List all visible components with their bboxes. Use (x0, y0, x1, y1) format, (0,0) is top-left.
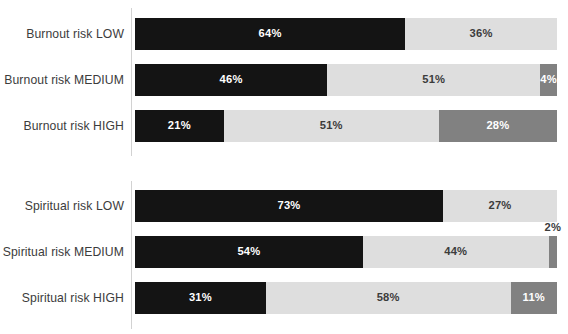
bar-segment-value: 28% (486, 120, 509, 131)
bar-segment-value: 11% (523, 292, 545, 303)
bar-row-label: Spiritual risk HIGH (0, 282, 124, 314)
bar-segment-black[interactable]: 21% (135, 110, 224, 142)
bar-segment-value: 31% (189, 292, 212, 303)
bar-segment-light[interactable]: 51% (327, 64, 540, 96)
table-row[interactable]: Burnout risk HIGH 21% 51% 28% (0, 110, 568, 142)
bar-track: 54% 44% 2% (135, 236, 557, 268)
bar-track: 73% 27% (135, 190, 557, 222)
bar-segment-value: 36% (470, 28, 493, 39)
bar-row-label: Spiritual risk MEDIUM (0, 236, 124, 268)
chart-group-spiritual: Spiritual risk LOW 73% 27% Spiritual ris… (0, 167, 568, 334)
bar-segment-black[interactable]: 31% (135, 282, 266, 314)
bar-segment-value: 46% (220, 74, 243, 85)
bar-segment-light[interactable]: 27% (443, 190, 557, 222)
bar-segment-value: 58% (377, 292, 400, 303)
bar-segment-value: 54% (237, 246, 260, 257)
table-row[interactable]: Spiritual risk HIGH 31% 58% 11% (0, 282, 568, 314)
bar-track: 64% 36% (135, 18, 557, 50)
stacked-bar-chart: Burnout risk LOW 64% 36% Burnout risk ME… (0, 0, 568, 334)
bar-segment-light[interactable]: 58% (266, 282, 511, 314)
bar-segment-value: 2% (544, 222, 561, 233)
bar-row-label: Burnout risk LOW (0, 18, 124, 50)
bar-segment-light[interactable]: 44% (363, 236, 549, 268)
bar-segment-dark[interactable]: 2% (549, 236, 557, 268)
bar-row-label: Burnout risk HIGH (0, 110, 124, 142)
table-row[interactable]: Spiritual risk LOW 73% 27% (0, 190, 568, 222)
bar-segment-value: 27% (489, 200, 512, 211)
bar-segment-value: 44% (444, 246, 467, 257)
bar-segment-value: 4% (540, 74, 557, 85)
bar-row-label: Spiritual risk LOW (0, 190, 124, 222)
bar-segment-value: 21% (168, 120, 191, 131)
bar-track: 21% 51% 28% (135, 110, 557, 142)
bar-segment-light[interactable]: 51% (224, 110, 439, 142)
bar-segment-dark[interactable]: 28% (439, 110, 557, 142)
bar-track: 31% 58% 11% (135, 282, 557, 314)
bar-segment-dark[interactable]: 11% (511, 282, 557, 314)
bar-segment-light[interactable]: 36% (405, 18, 557, 50)
table-row[interactable]: Burnout risk MEDIUM 46% 51% 4% (0, 64, 568, 96)
table-row[interactable]: Burnout risk LOW 64% 36% (0, 18, 568, 50)
bar-track: 46% 51% 4% (135, 64, 557, 96)
bar-segment-dark[interactable]: 4% (540, 64, 557, 96)
table-row[interactable]: Spiritual risk MEDIUM 54% 44% 2% (0, 236, 568, 268)
bar-segment-value: 64% (259, 28, 282, 39)
bar-row-label: Burnout risk MEDIUM (0, 64, 124, 96)
bar-segment-value: 73% (278, 200, 301, 211)
bar-segment-black[interactable]: 73% (135, 190, 443, 222)
bar-segment-black[interactable]: 46% (135, 64, 327, 96)
chart-group-burnout: Burnout risk LOW 64% 36% Burnout risk ME… (0, 0, 568, 167)
bar-segment-black[interactable]: 64% (135, 18, 405, 50)
bar-segment-value: 51% (320, 120, 343, 131)
bar-segment-value: 51% (422, 74, 445, 85)
bar-segment-black[interactable]: 54% (135, 236, 363, 268)
